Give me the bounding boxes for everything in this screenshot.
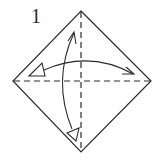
- right-half-arrowhead-icon: [122, 67, 134, 74]
- horizontal-arrow-curve: [44, 61, 133, 74]
- origami-diagram: 1: [0, 0, 164, 163]
- step-number-label: 1: [31, 6, 41, 26]
- diagram-canvas: [0, 0, 164, 163]
- left-hollow-arrowhead-icon: [29, 63, 45, 76]
- paper-outline: [13, 11, 151, 152]
